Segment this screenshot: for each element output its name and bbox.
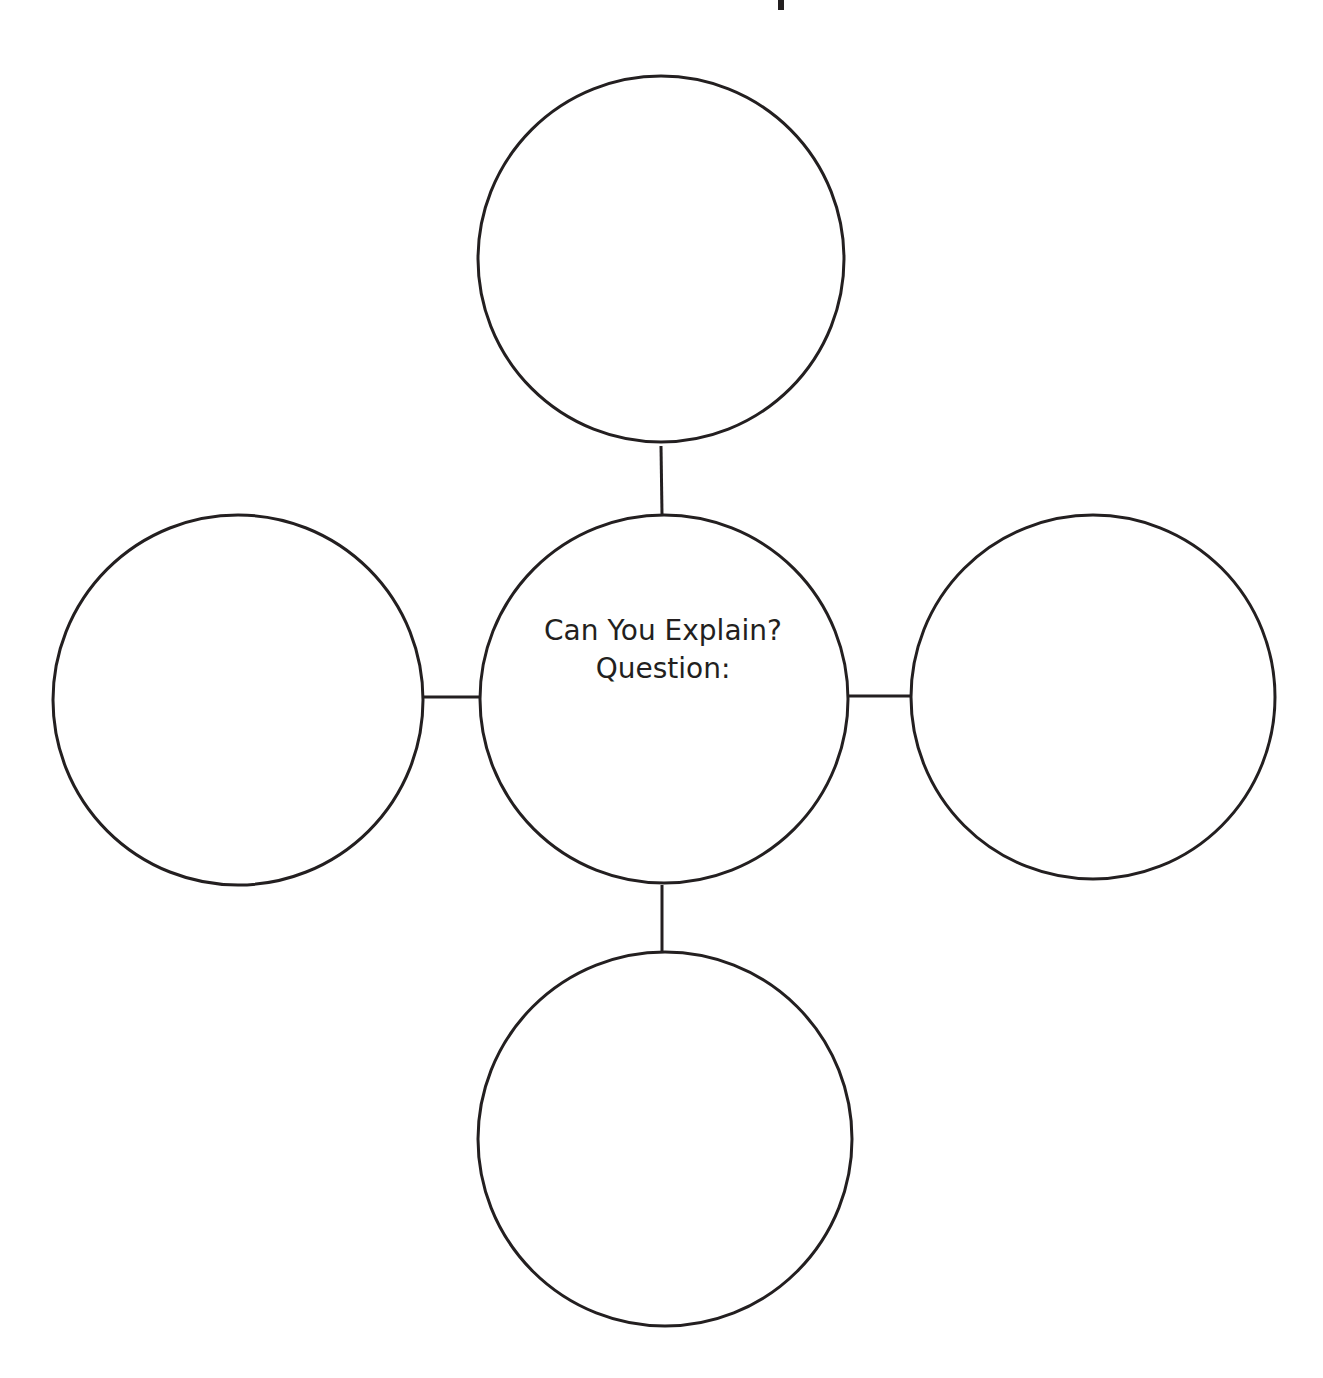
node-bottom[interactable] [478,952,852,1326]
node-top[interactable] [478,76,844,442]
node-right[interactable] [911,515,1275,879]
center-node-line2: Question: [490,650,836,688]
title-descender-fragment [778,0,784,10]
node-left[interactable] [53,515,423,885]
concept-map-diagram [0,0,1323,1378]
center-node-label: Can You Explain? Question: [490,612,836,688]
node-center[interactable] [480,515,848,883]
connector-top [661,446,662,514]
center-node-line1: Can You Explain? [490,612,836,650]
